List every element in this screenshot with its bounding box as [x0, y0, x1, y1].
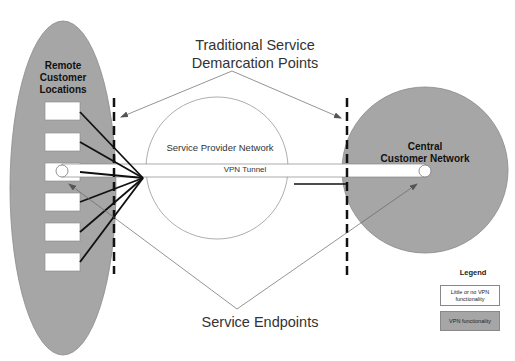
remote-customer-label: Remote Customer Locations: [8, 60, 118, 96]
legend-item-no-vpn: Little or no VPN functionality: [440, 285, 500, 306]
demarcation-label-line1: Traditional Service: [150, 36, 360, 54]
remote-site-box: [45, 133, 80, 151]
tunnel-endpoint-remote: [56, 165, 68, 177]
demarcation-label-line2: Demarcation Points: [150, 54, 360, 72]
central-label-line1: Central: [345, 141, 505, 153]
remote-label-line3: Locations: [8, 84, 118, 96]
legend-title: Legend: [448, 268, 498, 277]
central-label-line2: Customer Network: [345, 153, 505, 165]
demarcation-points-label: Traditional Service Demarcation Points: [150, 36, 360, 72]
legend-no-vpn-line2: functionality: [451, 296, 490, 303]
remote-site-box: [45, 193, 80, 211]
remote-site-box: [45, 253, 80, 271]
service-provider-label: Service Provider Network: [150, 142, 290, 153]
remote-label-line2: Customer: [8, 72, 118, 84]
service-endpoints-label: Service Endpoints: [160, 314, 360, 330]
remote-site-box: [45, 223, 80, 241]
legend-no-vpn-line1: Little or no VPN: [451, 289, 490, 296]
vpn-tunnel-label: VPN Tunnel: [200, 165, 290, 174]
central-customer-label: Central Customer Network: [345, 141, 505, 165]
legend-item-vpn: VPN functionality: [440, 311, 500, 331]
legend-vpn-label: VPN functionality: [449, 318, 491, 325]
remote-site-box: [45, 102, 80, 120]
remote-label-line1: Remote: [8, 60, 118, 72]
tunnel-endpoint-central: [419, 165, 431, 177]
